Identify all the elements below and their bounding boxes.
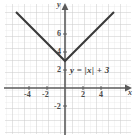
y-tick-label-pos2: 2 [57,66,61,74]
y-tick-label-pos6: 6 [57,30,61,38]
x-tick-label-neg2: -2 [42,91,49,99]
equation-annotation: y = |x| + 3 [70,66,110,75]
x-tick-label-pos2: 2 [81,91,85,99]
y-axis-label: y [57,1,61,9]
y-tick-label-pos4: 4 [57,48,61,56]
grid-layer [5,4,131,134]
y-tick-label-neg2: -2 [54,103,61,111]
graph-figure: -4 -2 2 4 6 4 2 -2 y x y = |x| + 3 [0,0,136,139]
x-tick-label-pos4: 4 [99,91,103,99]
coordinate-plane-svg [0,0,136,139]
x-tick-label-neg4: -4 [24,91,31,99]
x-axis-label: x [128,89,132,97]
